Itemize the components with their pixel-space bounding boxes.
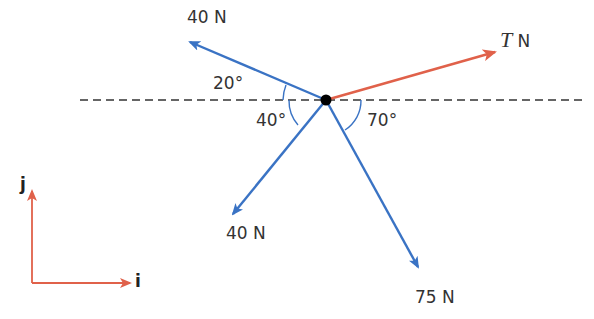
tension-unit: N bbox=[518, 31, 531, 51]
force-tension-arrow bbox=[326, 52, 495, 100]
angle-label-20: 20° bbox=[213, 73, 243, 93]
angle-label-40: 40° bbox=[256, 110, 286, 130]
force-tension-label: T N bbox=[500, 27, 530, 53]
angle-arc-70 bbox=[345, 100, 361, 130]
tension-variable: T bbox=[500, 27, 512, 52]
force-40n-lower-left-label: 40 N bbox=[226, 223, 266, 243]
particle-dot bbox=[321, 95, 332, 106]
force-75n-lower-right-label: 75 N bbox=[415, 287, 455, 307]
force-40n-upper-left-arrow bbox=[190, 42, 326, 100]
angle-label-70: 70° bbox=[367, 110, 397, 130]
angle-arc-20 bbox=[283, 85, 286, 100]
unit-vector-j-label: j bbox=[20, 174, 26, 194]
unit-vector-i-label: i bbox=[135, 271, 141, 291]
force-40n-upper-left-label: 40 N bbox=[187, 7, 227, 27]
angle-arc-40 bbox=[289, 100, 298, 125]
